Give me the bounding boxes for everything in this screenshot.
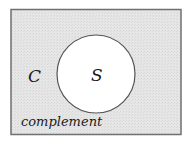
complement-caption: complement [21,114,103,129]
venn-diagram: S C complement [0,0,185,149]
complement-c-label: C [28,66,41,86]
set-s-label: S [91,65,103,85]
